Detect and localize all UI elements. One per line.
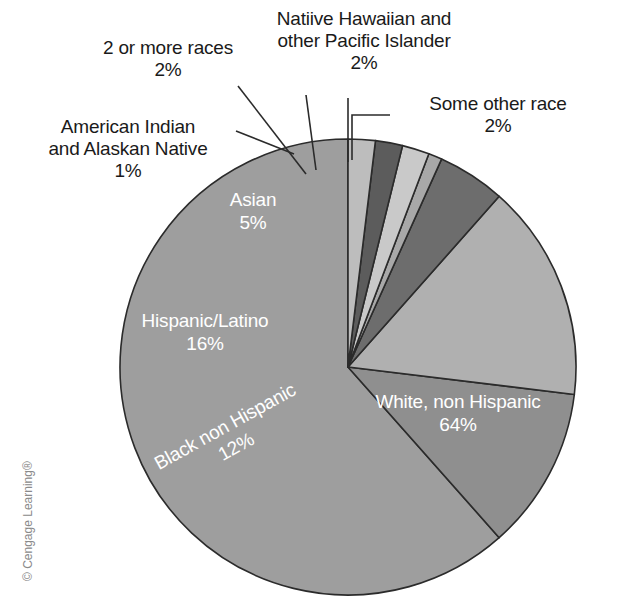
callout-label-some-other-race: Some other race 2% xyxy=(392,93,604,137)
inslice-label-name-asian: Asian xyxy=(230,189,277,210)
pie-slice-group xyxy=(120,139,576,595)
leader-line-american-indian xyxy=(236,131,294,154)
inslice-label-name-white-non-hispanic: White, non Hispanic xyxy=(375,391,540,412)
inslice-label-value-white-non-hispanic: 64% xyxy=(439,414,477,435)
callout-label-american-indian: American Indian and Alaskan Native 1% xyxy=(22,116,234,182)
inslice-label-name-hispanic-latino: Hispanic/Latino xyxy=(142,310,269,331)
inslice-label-value-hispanic-latino: 16% xyxy=(186,333,224,354)
callout-label-2-or-more-races: 2 or more races 2% xyxy=(72,37,264,81)
inslice-label-value-asian: 5% xyxy=(239,212,266,233)
pie-chart-figure: White, non Hispanic64%Black non Hispanic… xyxy=(0,0,624,616)
callout-label-pacific-islander: Natiive Hawaiian and other Pacific Islan… xyxy=(248,8,480,74)
copyright-credit: © Cengage Learning® xyxy=(21,421,35,581)
